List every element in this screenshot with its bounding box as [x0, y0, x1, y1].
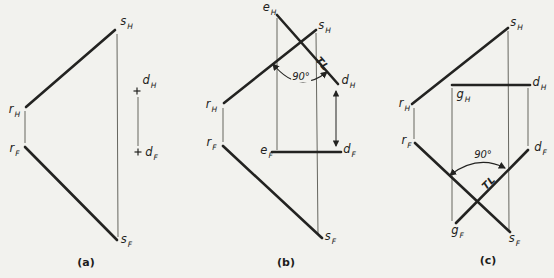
point-letter: r — [9, 102, 14, 116]
projection-lines-drawing — [0, 0, 554, 278]
fig-b-point-label-rF: rF — [206, 137, 215, 149]
point-subscript: F — [15, 149, 19, 158]
fig-a-point-label-rH: rH — [9, 104, 19, 116]
point-subscript: F — [128, 240, 132, 249]
fig-c-point-label-rF: rF — [401, 135, 410, 147]
point-subscript: F — [332, 237, 336, 246]
fig-b-angle-90-label: 90° — [291, 72, 311, 82]
point-subscript: F — [459, 231, 463, 240]
fig-b-point-label-rH: rH — [206, 99, 216, 111]
point-letter: d — [534, 140, 541, 154]
point-subscript: H — [151, 81, 157, 90]
fig-a-point-label-dH: dH — [143, 75, 156, 87]
point-letter: s — [325, 229, 331, 243]
point-subscript: H — [127, 22, 133, 31]
point-subscript: F — [268, 151, 272, 160]
point-letter: d — [143, 73, 150, 87]
point-letter: e — [260, 143, 267, 157]
point-subscript: H — [325, 26, 331, 35]
point-letter: r — [9, 141, 14, 155]
point-letter: r — [206, 135, 211, 149]
fig-c-point-label-dF: dF — [534, 142, 546, 154]
fig-a-point-label-sF: sF — [121, 234, 131, 246]
fig-a-point-label-sH: sH — [120, 16, 132, 28]
fig-c-point-label-gH: gH — [457, 89, 470, 101]
fig-c-caption: (c) — [480, 255, 497, 266]
point-letter: d — [533, 75, 540, 89]
point-letter: d — [145, 145, 152, 159]
point-letter: s — [509, 231, 515, 245]
point-subscript: F — [407, 141, 411, 150]
fig-b-point-label-eF: eF — [260, 145, 271, 157]
point-subscript: F — [153, 153, 157, 162]
fig-c-point-label-gF: gF — [451, 225, 463, 237]
point-letter: s — [510, 15, 516, 29]
point-subscript: H — [350, 81, 356, 90]
fig-b-point-label-sF: sF — [325, 231, 335, 243]
point-subscript: F — [516, 239, 520, 248]
fig-c-point-label-sF: sF — [509, 233, 519, 245]
fig-b-point-label-eH: eH — [263, 2, 276, 14]
point-letter: d — [342, 73, 349, 87]
point-letter: r — [206, 97, 211, 111]
fig-c-point-label-rH: rH — [399, 98, 409, 110]
point-letter: s — [120, 14, 126, 28]
fig-b-point-label-dF: dF — [343, 144, 355, 156]
point-subscript: F — [212, 143, 216, 152]
point-subscript: H — [15, 110, 21, 119]
point-letter: e — [263, 0, 270, 14]
point-letter: s — [318, 18, 324, 32]
fig-a-caption: (a) — [77, 257, 94, 268]
fig-c-point-label-dH: dH — [533, 77, 546, 89]
point-subscript: H — [517, 23, 523, 32]
diagram-canvas: sH rH rF sF dH dF (a) eH sH rH rF eF dH … — [0, 0, 554, 278]
point-subscript: H — [212, 105, 218, 114]
point-subscript: H — [271, 8, 277, 17]
point-subscript: H — [465, 95, 471, 104]
fig-b-caption: (b) — [277, 257, 295, 268]
fig-c-angle-90-label: 90° — [473, 150, 493, 160]
point-letter: g — [451, 223, 458, 237]
fig-a-point-label-dF: dF — [145, 147, 157, 159]
point-letter: r — [399, 96, 404, 110]
point-letter: r — [401, 133, 406, 147]
point-letter: d — [343, 142, 350, 156]
fig-b-point-label-sH: sH — [318, 20, 330, 32]
point-subscript: F — [351, 150, 355, 159]
point-letter: s — [121, 232, 127, 246]
point-subscript: F — [542, 148, 546, 157]
point-letter: g — [457, 87, 464, 101]
fig-c-point-label-sH: sH — [510, 17, 522, 29]
point-subscript: H — [541, 83, 547, 92]
point-subscript: H — [405, 104, 411, 113]
fig-b-point-label-dH: dH — [342, 75, 355, 87]
fig-a-point-label-rF: rF — [9, 143, 18, 155]
